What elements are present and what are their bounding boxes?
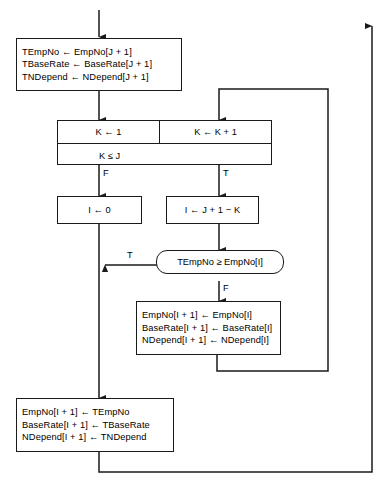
node-insert-line-1: EmpNo[I + 1] ← TEmpNo <box>17 406 173 418</box>
node-i-zero: I ← 0 <box>57 196 142 224</box>
edge-label-loop-false: F <box>103 168 109 178</box>
node-shift-line-1: EmpNo[I + 1] ← EmpNo[I] <box>137 309 280 321</box>
node-k-loop-header: K ← 1 K ← K + 1 <box>58 121 271 144</box>
node-compare-decision: TEmpNo ≥ EmpNo[I] <box>156 250 284 274</box>
node-save-temp-line-1: TEmpNo ← EmpNo[J + 1] <box>17 46 181 58</box>
node-i-zero-line-1: I ← 0 <box>58 204 141 216</box>
node-k-loop-condition: K ≤ J <box>58 144 271 167</box>
node-shift-elements: EmpNo[I + 1] ← EmpNo[I] BaseRate[I + 1] … <box>136 301 281 355</box>
node-save-temp-line-3: TNDepend ← NDepend[J + 1] <box>17 71 181 83</box>
node-k-loop-init: K ← 1 <box>58 121 160 143</box>
flowchart-canvas: TEmpNo ← EmpNo[J + 1] TBaseRate ← BaseRa… <box>0 0 390 490</box>
node-shift-line-3: NDepend[I + 1] ← NDepend[I] <box>137 334 280 346</box>
node-compare-text: TEmpNo ≥ EmpNo[I] <box>177 257 263 267</box>
node-insert-line-3: NDepend[I + 1] ← TNDepend <box>17 431 173 443</box>
node-k-loop-increment: K ← K + 1 <box>160 121 271 143</box>
node-save-temp-line-2: TBaseRate ← BaseRate[J + 1] <box>17 58 181 70</box>
node-shift-line-2: BaseRate[I + 1] ← BaseRate[I] <box>137 322 280 334</box>
node-i-calc: I ← J + 1 − K <box>166 196 259 224</box>
node-save-temp-values: TEmpNo ← EmpNo[J + 1] TBaseRate ← BaseRa… <box>16 38 182 91</box>
node-insert-line-2: BaseRate[I + 1] ← TBaseRate <box>17 419 173 431</box>
node-k-loop: K ← 1 K ← K + 1 K ≤ J <box>57 120 272 165</box>
node-i-calc-line-1: I ← J + 1 − K <box>167 204 258 216</box>
edge-label-compare-true: T <box>127 250 133 260</box>
node-insert-values: EmpNo[I + 1] ← TEmpNo BaseRate[I + 1] ← … <box>16 398 174 452</box>
edge-label-compare-false: F <box>223 283 229 293</box>
edge-label-loop-true: T <box>223 168 229 178</box>
